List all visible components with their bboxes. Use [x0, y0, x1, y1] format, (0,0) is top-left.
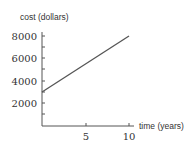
x-tick-label-10: 10 [123, 131, 136, 142]
y-axis-label: cost (dollars) [20, 12, 69, 22]
cost-line [42, 36, 129, 92]
x-axis-label: time (years) [139, 121, 184, 131]
y-tick-label-8000: 8000 [12, 31, 37, 42]
line-chart: cost (dollars) time (years) 8000 6000 40… [0, 0, 190, 147]
x-tick-label-5: 5 [83, 131, 89, 142]
y-tick-label-4000: 4000 [12, 76, 37, 87]
y-tick-label-2000: 2000 [12, 98, 37, 109]
y-tick-label-6000: 6000 [12, 53, 37, 64]
